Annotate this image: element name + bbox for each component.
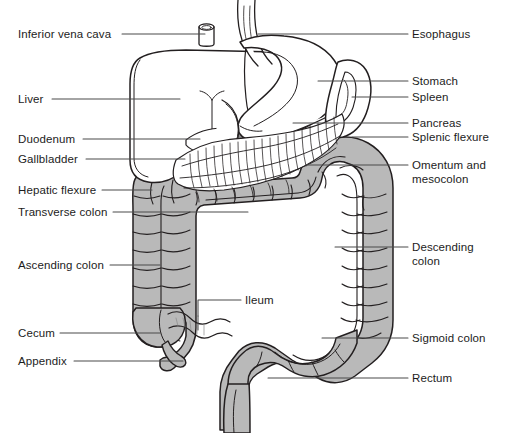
label-inferior-vena-cava: Inferior vena cava — [18, 28, 111, 42]
label-transverse-colon: Transverse colon — [18, 206, 107, 220]
label-stomach: Stomach — [412, 75, 458, 89]
label-appendix: Appendix — [18, 355, 67, 369]
label-rectum: Rectum — [412, 372, 452, 386]
label-descending-colon: Descending colon — [412, 241, 474, 268]
ivc-lumen — [202, 26, 211, 30]
label-duodenum: Duodenum — [18, 133, 75, 147]
inferior-vena-cava — [199, 24, 214, 46]
label-cecum: Cecum — [18, 327, 55, 341]
label-hepatic-flexure: Hepatic flexure — [18, 184, 96, 198]
label-omentum-and-mesocolon: Omentum and mesocolon — [412, 159, 486, 186]
leader-ileum — [198, 300, 241, 316]
label-sigmoid-colon: Sigmoid colon — [412, 332, 486, 346]
label-liver: Liver — [18, 93, 43, 107]
cecum — [133, 308, 186, 347]
label-splenic-flexure: Splenic flexure — [412, 131, 489, 145]
label-gallbladder: Gallbladder — [18, 153, 78, 167]
label-esophagus: Esophagus — [412, 28, 470, 42]
label-pancreas: Pancreas — [412, 117, 461, 131]
colon-inner-division-3 — [293, 174, 357, 360]
anatomy-diagram: Inferior vena cava Liver Duodenum Gallbl… — [0, 0, 505, 433]
label-ascending-colon: Ascending colon — [18, 259, 104, 273]
label-ileum: Ileum — [245, 294, 274, 308]
rectum — [224, 384, 250, 433]
label-spleen: Spleen — [412, 91, 448, 105]
